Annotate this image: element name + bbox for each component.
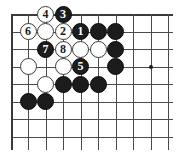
move-number: 2 (56, 24, 71, 39)
stone-white (72, 41, 89, 58)
stone-black (72, 76, 89, 93)
stone-black (107, 23, 124, 40)
stone-white (37, 23, 54, 40)
grid-line-horizontal (11, 137, 174, 138)
grid-line-vertical (133, 14, 134, 150)
star-point (149, 65, 153, 69)
grid-line-horizontal (11, 119, 174, 120)
go-board-diagram: 43621785 (0, 0, 188, 158)
stone-black (90, 23, 107, 40)
move-number: 7 (38, 41, 53, 56)
move-number: 5 (73, 59, 88, 74)
grid-line-vertical (11, 14, 13, 150)
stone-black (37, 93, 54, 110)
stone-white (55, 58, 72, 75)
stone-black (107, 41, 124, 58)
grid-line-horizontal (11, 14, 174, 16)
stone-black-move-5: 5 (72, 58, 89, 75)
move-number: 3 (56, 6, 71, 21)
stone-white-move-4: 4 (37, 6, 54, 23)
grid-line-vertical (168, 14, 169, 150)
stone-black-move-3: 3 (55, 6, 72, 23)
stone-black (107, 58, 124, 75)
stone-white (20, 58, 37, 75)
move-number: 1 (73, 24, 88, 39)
goban-grid: 43621785 (0, 0, 188, 158)
stone-black-move-7: 7 (37, 41, 54, 58)
stone-black (90, 76, 107, 93)
stone-white-move-6: 6 (20, 23, 37, 40)
move-number: 4 (38, 6, 53, 21)
stone-white-move-2: 2 (55, 23, 72, 40)
move-number: 6 (21, 24, 36, 39)
stone-white-move-8: 8 (55, 41, 72, 58)
grid-line-vertical (151, 14, 152, 150)
stone-black (20, 93, 37, 110)
stone-black-move-1: 1 (72, 23, 89, 40)
stone-black (55, 76, 72, 93)
stone-white (90, 41, 107, 58)
stone-white (37, 76, 54, 93)
move-number: 8 (56, 41, 71, 56)
